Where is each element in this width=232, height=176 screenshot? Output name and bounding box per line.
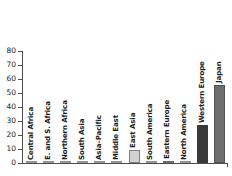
y-axis-tick bbox=[18, 65, 22, 66]
category-label: Japan bbox=[216, 61, 223, 83]
category-label: Asia–Pacific bbox=[96, 115, 103, 160]
y-axis-tick-label: 20 bbox=[0, 131, 16, 139]
category-label: South Asia bbox=[79, 119, 86, 160]
category-label: Central Africa bbox=[28, 107, 35, 160]
y-axis-tick bbox=[18, 107, 22, 108]
y-axis-tick bbox=[18, 163, 22, 164]
category-label: Middle East bbox=[113, 115, 120, 160]
y-axis-tick-label: 30 bbox=[0, 117, 16, 125]
category-label: Eastern Europe bbox=[164, 100, 171, 159]
y-axis-tick bbox=[18, 121, 22, 122]
category-label: Western Europe bbox=[199, 61, 206, 123]
y-axis-tick bbox=[18, 51, 22, 52]
category-label: South America bbox=[147, 103, 154, 159]
y-axis-tick-label: 60 bbox=[0, 75, 16, 83]
y-axis-tick bbox=[18, 93, 22, 94]
category-label: North America bbox=[181, 104, 188, 160]
y-axis-tick-label: 10 bbox=[0, 145, 16, 153]
category-label: Northern Africa bbox=[62, 100, 69, 160]
bar-chart: 01020304050607080 Central AfricaE. and S… bbox=[0, 0, 232, 176]
category-label: East Asia bbox=[130, 113, 137, 148]
category-labels-layer: Central AfricaE. and S. AfricaNorthern A… bbox=[23, 51, 228, 163]
y-axis-tick bbox=[18, 79, 22, 80]
y-axis-tick bbox=[18, 149, 22, 150]
x-axis-end-tick bbox=[227, 163, 228, 167]
y-axis-tick-label: 70 bbox=[0, 61, 16, 69]
y-axis-tick-label: 50 bbox=[0, 89, 16, 97]
x-axis-line bbox=[18, 163, 228, 164]
category-label: E. and S. Africa bbox=[45, 101, 52, 160]
y-axis-tick-label: 40 bbox=[0, 103, 16, 111]
y-axis-tick-label: 80 bbox=[0, 47, 16, 55]
y-axis-tick bbox=[18, 135, 22, 136]
y-axis-tick-label: 0 bbox=[0, 159, 16, 167]
